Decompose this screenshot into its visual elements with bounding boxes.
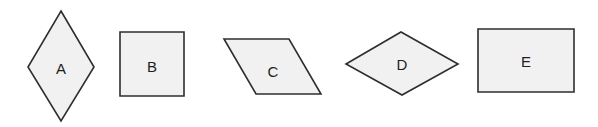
- shape-c: C: [224, 39, 321, 94]
- label-e: E: [521, 53, 531, 70]
- label-a: A: [56, 60, 66, 77]
- shape-d: D: [346, 32, 458, 95]
- shape-e: E: [478, 29, 574, 92]
- label-c: C: [268, 63, 279, 80]
- shape-b: B: [120, 32, 184, 96]
- shapes-diagram: A B C D E: [0, 0, 598, 127]
- label-b: B: [147, 58, 157, 75]
- shape-a: A: [28, 11, 94, 121]
- label-d: D: [397, 56, 408, 73]
